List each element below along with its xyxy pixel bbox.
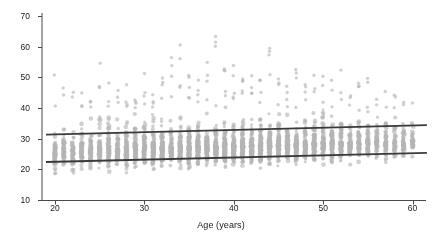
x-tick-label-20: 20 bbox=[50, 203, 59, 213]
y-tick-label-70: 70 bbox=[8, 11, 30, 21]
x-tick-label-40: 40 bbox=[229, 203, 238, 213]
y-tick-label-40: 40 bbox=[8, 103, 30, 113]
scatter-plot-figure: Body mass index (kg/m²) Age (years) 2030… bbox=[0, 0, 442, 238]
x-tick-label-60: 60 bbox=[408, 203, 417, 213]
plot-area-canvas bbox=[0, 0, 442, 238]
x-tick-label-30: 30 bbox=[140, 203, 149, 213]
x-axis-title: Age (years) bbox=[0, 220, 442, 230]
x-tick-label-50: 50 bbox=[318, 203, 327, 213]
y-tick-label-50: 50 bbox=[8, 72, 30, 82]
y-tick-label-20: 20 bbox=[8, 164, 30, 174]
y-tick-label-30: 30 bbox=[8, 134, 30, 144]
y-tick-label-10: 10 bbox=[8, 195, 30, 205]
y-tick-label-60: 60 bbox=[8, 42, 30, 52]
